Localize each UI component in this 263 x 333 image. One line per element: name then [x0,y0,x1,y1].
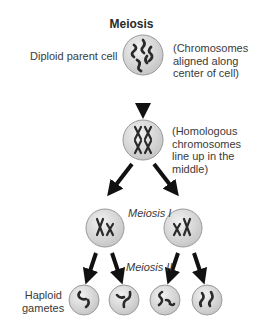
homologous-note-line: (Homologous [172,125,241,138]
arrow-icon [112,253,120,277]
homologous-note-line: line up in the [172,150,241,163]
meiosis-1-cell-left [86,209,124,247]
haploid-gamete-4 [192,285,222,315]
arrow-down-left-icon [112,164,132,190]
parent-note-line: center of cell) [173,67,248,80]
gametes-label-line: gametes [22,302,62,315]
meiosis-1-label: Meiosis I [128,207,171,220]
homologous-note-line: chromosomes [172,138,241,151]
parent-note-line: aligned along [173,55,248,68]
homologous-note-line: middle) [172,163,241,176]
parent-note: (Chromosomes aligned along center of cel… [173,42,248,80]
gametes-label-line: Haploid [22,289,62,302]
haploid-gametes-label: Haploid gametes [22,289,62,314]
parent-note-line: (Chromosomes [173,42,248,55]
arrow-down-right-icon [154,164,174,190]
homologous-note: (Homologous chromosomes line up in the m… [172,125,241,175]
diploid-parent-cell [123,35,163,75]
arrow-icon [194,253,202,277]
haploid-gamete-3 [150,285,180,315]
meiosis-2-label: Meiosis II [126,261,172,274]
haploid-gamete-2 [109,285,139,315]
diploid-parent-cell-label: Diploid parent cell [30,50,117,63]
arrow-icon [88,253,96,277]
haploid-gamete-1 [69,285,99,315]
homologous-pairs-cell [123,120,163,160]
